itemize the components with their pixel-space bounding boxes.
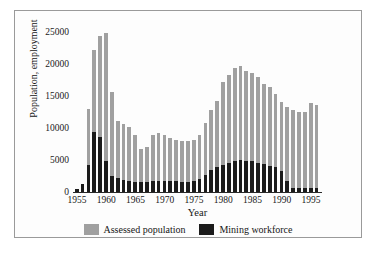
bar-mining-workforce (127, 181, 131, 192)
chart-legend: Assessed populationMining workforce (15, 224, 361, 235)
bar-mining-workforce (274, 167, 278, 192)
bar-mining-workforce (227, 163, 231, 192)
bar-assessed-population (303, 112, 307, 192)
bar-assessed-population (285, 107, 289, 192)
bar-assessed-population (297, 112, 301, 192)
plot-area (73, 23, 321, 192)
bar-mining-workforce (198, 179, 202, 192)
bar-mining-workforce (244, 161, 248, 192)
legend-swatch-icon (199, 224, 214, 235)
bar-assessed-population (315, 105, 319, 192)
legend-item: Mining workforce (199, 224, 292, 235)
bar-mining-workforce (233, 161, 237, 192)
bar-mining-workforce (163, 181, 167, 192)
x-axis-tick: 1955 (68, 195, 87, 205)
bar-mining-workforce (139, 182, 143, 192)
x-axis-tick: 1965 (126, 195, 145, 205)
x-axis-tick: 1970 (155, 195, 174, 205)
legend-item: Assessed population (84, 224, 186, 235)
y-axis-tick: 10000 (45, 124, 69, 133)
y-axis-tick: 15000 (45, 92, 69, 101)
bar-assessed-population (309, 103, 313, 192)
legend-swatch-icon (84, 224, 99, 235)
bar-mining-workforce (116, 178, 120, 192)
bar-mining-workforce (87, 165, 91, 192)
bar-mining-workforce (192, 181, 196, 192)
bar-series-container (73, 23, 321, 192)
x-axis-tick: 1960 (97, 195, 116, 205)
bar-group (314, 23, 320, 192)
legend-label: Assessed population (104, 224, 186, 235)
y-axis-tick: 25000 (45, 28, 69, 37)
bar-mining-workforce (262, 164, 266, 192)
x-axis-tick: 1990 (272, 195, 291, 205)
bar-mining-workforce (209, 170, 213, 192)
x-axis-line (73, 192, 322, 193)
x-axis-tick: 1980 (214, 195, 233, 205)
bar-mining-workforce (110, 176, 114, 192)
y-axis-tick: 20000 (45, 60, 69, 69)
bar-mining-workforce (133, 182, 137, 192)
bar-mining-workforce (215, 167, 219, 192)
bar-mining-workforce (180, 182, 184, 192)
bar-mining-workforce (92, 132, 96, 192)
legend-label: Mining workforce (219, 224, 292, 235)
bar-mining-workforce (280, 171, 284, 192)
bar-mining-workforce (98, 137, 102, 192)
bar-mining-workforce (250, 161, 254, 192)
bar-mining-workforce (151, 181, 155, 192)
y-axis-title: Population, employment (28, 0, 39, 144)
bar-mining-workforce (186, 182, 190, 192)
bar-mining-workforce (122, 180, 126, 192)
x-axis-tick: 1975 (185, 195, 204, 205)
x-axis-title: Year (73, 207, 322, 218)
bar-mining-workforce (157, 181, 161, 192)
bar-mining-workforce (239, 160, 243, 192)
x-axis-tick: 1995 (302, 195, 321, 205)
chart-figure: 2500020000150001000050000 Population, em… (14, 10, 362, 238)
bar-mining-workforce (221, 165, 225, 192)
bar-mining-workforce (145, 182, 149, 192)
bar-mining-workforce (168, 181, 172, 192)
bar-mining-workforce (285, 181, 289, 192)
bar-assessed-population (291, 110, 295, 192)
bar-mining-workforce (81, 184, 85, 192)
bar-mining-workforce (268, 166, 272, 192)
bar-mining-workforce (204, 175, 208, 192)
bar-mining-workforce (174, 181, 178, 192)
bar-mining-workforce (256, 163, 260, 192)
x-axis-tick: 1985 (243, 195, 262, 205)
bar-mining-workforce (104, 161, 108, 192)
y-axis-tick: 5000 (50, 156, 69, 165)
